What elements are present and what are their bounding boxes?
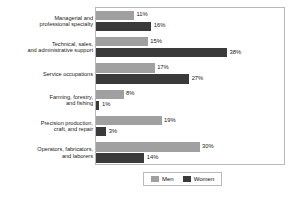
bar-group-men: 30% [96, 142, 214, 152]
bar-group-women: 1% [96, 101, 110, 111]
bar-value-label: 30% [202, 144, 214, 150]
category-row: Farming, forestry,and fishing8%1% [96, 87, 284, 113]
bar-women [96, 153, 144, 163]
category-row: Precision production,craft, and repair19… [96, 113, 284, 139]
category-label: Farming, forestry,and fishing [4, 87, 96, 113]
legend-item-women: Women [183, 176, 215, 182]
bar-value-label: 15% [150, 39, 162, 45]
legend-label: Women [194, 176, 215, 182]
category-label-line: professional specialty [40, 21, 93, 28]
bar-group-men: 17% [96, 63, 169, 73]
category-row: Operators, fabricators,and laborers30%14… [96, 140, 284, 166]
category-label-line: Technical, sales, [52, 41, 93, 48]
legend-swatch-icon [183, 176, 191, 182]
category-row: Technical, sales,and administrative supp… [96, 34, 284, 60]
bar-group-men: 15% [96, 37, 162, 47]
category-label-line: and fishing [66, 100, 93, 107]
bar-value-label: 11% [136, 12, 147, 18]
bar-women [96, 48, 227, 58]
bar-value-label: 17% [157, 65, 169, 71]
bar-men [96, 116, 162, 126]
category-label-line: Service occupations [43, 71, 93, 78]
bar-women [96, 127, 106, 137]
category-label-line: and administrative support [27, 47, 93, 54]
bar-men [96, 63, 155, 73]
bar-men [96, 90, 124, 100]
bar-group-men: 11% [96, 11, 148, 21]
bar-value-label: 14% [147, 155, 159, 161]
category-label-line: and laborers [62, 153, 93, 160]
bar-value-label: 19% [164, 118, 176, 124]
bar-group-women: 16% [96, 22, 165, 32]
category-label: Managerial andprofessional specialty [4, 8, 96, 34]
bar-value-label: 27% [192, 76, 204, 82]
legend-swatch-icon [151, 176, 159, 182]
bar-women [96, 101, 99, 111]
plot-area: Managerial andprofessional specialty11%1… [95, 7, 285, 165]
bar-group-women: 27% [96, 74, 203, 84]
chart-legend: MenWomen [143, 172, 222, 186]
category-label-line: Operators, fabricators, [37, 146, 93, 153]
bar-value-label: 38% [230, 50, 242, 56]
bar-women [96, 74, 189, 84]
category-row: Managerial andprofessional specialty11%1… [96, 8, 284, 34]
bar-women [96, 22, 151, 32]
bar-group-men: 19% [96, 116, 176, 126]
bar-group-women: 3% [96, 127, 117, 137]
bar-group-women: 38% [96, 48, 241, 58]
bar-men [96, 11, 134, 21]
category-label: Technical, sales,and administrative supp… [4, 34, 96, 60]
bar-value-label: 8% [126, 91, 134, 97]
bar-chart-figure: Managerial andprofessional specialty11%1… [0, 0, 299, 199]
category-label-line: craft, and repair [54, 126, 93, 133]
bar-value-label: 16% [154, 23, 166, 29]
legend-label: Men [162, 176, 174, 182]
category-label-line: Managerial and [54, 15, 93, 22]
category-label-line: Farming, forestry, [50, 94, 93, 101]
bar-group-women: 14% [96, 153, 158, 163]
category-label: Service occupations [4, 61, 96, 87]
bar-value-label: 3% [109, 129, 117, 135]
category-label-line: Precision production, [41, 120, 93, 127]
bar-men [96, 37, 148, 47]
category-label: Operators, fabricators,and laborers [4, 140, 96, 166]
bar-value-label: 1% [102, 102, 110, 108]
category-label: Precision production,craft, and repair [4, 113, 96, 139]
category-row: Service occupations17%27% [96, 61, 284, 87]
bar-group-men: 8% [96, 90, 134, 100]
legend-item-men: Men [151, 176, 174, 182]
bar-men [96, 142, 200, 152]
